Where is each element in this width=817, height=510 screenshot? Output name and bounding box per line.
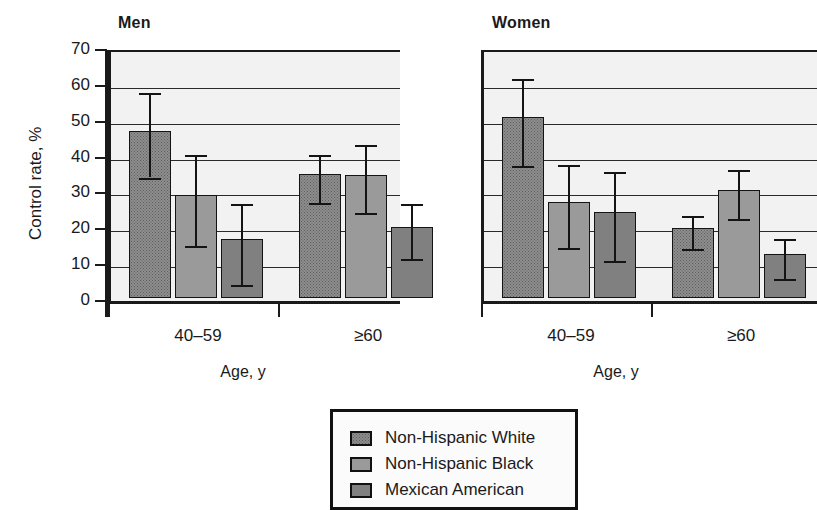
error-bar-cap: [512, 166, 534, 168]
error-bar-cap: [774, 239, 796, 241]
legend-swatch-icon: [350, 457, 372, 472]
legend-label: Non-Hispanic White: [385, 428, 535, 448]
error-bar-cap: [355, 213, 377, 215]
x-axis-label: Age, y: [526, 363, 706, 381]
error-bar-cap: [604, 261, 626, 263]
y-tick-mark-30: [95, 192, 107, 194]
y-tick-label-10: 10: [38, 254, 90, 274]
error-bar-cap: [231, 204, 253, 206]
error-bar-cap: [558, 165, 580, 167]
error-bar-cap: [401, 259, 423, 261]
legend-item-ma: Mexican American: [350, 480, 524, 500]
x-tick-label: ≥60: [691, 326, 791, 346]
plot-area: [481, 50, 817, 304]
error-bar-cap: [682, 249, 704, 251]
error-bar-cap: [139, 178, 161, 180]
y-tick-label-0: 0: [38, 290, 90, 310]
panel-title-women: Women: [492, 14, 550, 32]
error-bar: [241, 204, 243, 285]
error-bar-cap: [682, 216, 704, 218]
error-bar-cap: [309, 203, 331, 205]
error-bar-cap: [231, 285, 253, 287]
y-tick-mark-0: [95, 300, 107, 302]
legend-swatch-icon: [350, 483, 372, 498]
y-tick-mark-40: [95, 157, 107, 159]
error-bar: [614, 172, 616, 260]
y-axis-line: [105, 50, 108, 317]
error-bar: [784, 239, 786, 279]
y-tick-mark-10: [95, 264, 107, 266]
error-bar-cap: [401, 204, 423, 206]
y-tick-label-50: 50: [38, 111, 90, 131]
error-bar: [692, 216, 694, 249]
error-bar-cap: [139, 93, 161, 95]
legend-label: Non-Hispanic Black: [385, 454, 533, 474]
error-bar-cap: [185, 246, 207, 248]
y-tick-mark-20: [95, 228, 107, 230]
error-bar-cap: [558, 248, 580, 250]
error-bar: [365, 145, 367, 214]
error-bar: [319, 155, 321, 202]
legend-label: Mexican American: [385, 480, 524, 500]
chart-panel-men: Men40–59≥60Age, y: [108, 0, 400, 390]
y-tick-mark-60: [95, 85, 107, 87]
x-tick-label: 40–59: [521, 326, 621, 346]
y-tick-label-20: 20: [38, 218, 90, 238]
error-bar: [738, 170, 740, 219]
y-tick-label-70: 70: [38, 39, 90, 59]
error-bar-cap: [309, 155, 331, 157]
error-bar-cap: [604, 172, 626, 174]
error-bar: [568, 165, 570, 249]
error-bar: [149, 93, 151, 177]
error-bar-cap: [774, 279, 796, 281]
error-bar: [411, 204, 413, 260]
x-axis-label: Age, y: [153, 363, 333, 381]
error-bar: [195, 155, 197, 246]
x-tick-mark: [481, 304, 483, 317]
error-bar-cap: [512, 79, 534, 81]
gridline-60: [111, 88, 400, 89]
gridline-60: [484, 88, 817, 89]
plot-area: [108, 50, 400, 304]
x-tick-label: 40–59: [148, 326, 248, 346]
error-bar-cap: [728, 170, 750, 172]
figure-container: Control rate, % Men40–59≥60Age, yWomen40…: [0, 0, 817, 510]
x-tick-mark: [278, 304, 280, 317]
y-tick-label-30: 30: [38, 182, 90, 202]
legend-item-nhb: Non-Hispanic Black: [350, 454, 533, 474]
legend-swatch-icon: [350, 431, 372, 446]
legend-item-nhw: Non-Hispanic White: [350, 428, 535, 448]
y-tick-mark-70: [95, 49, 107, 51]
error-bar-cap: [728, 219, 750, 221]
x-tick-label: ≥60: [318, 326, 418, 346]
panel-title-men: Men: [118, 14, 151, 32]
chart-panel-women: Women40–59≥60Age, y: [481, 0, 817, 390]
error-bar-cap: [185, 155, 207, 157]
y-tick-label-60: 60: [38, 75, 90, 95]
error-bar-cap: [355, 145, 377, 147]
x-tick-mark: [651, 304, 653, 317]
x-tick-mark: [108, 304, 110, 317]
y-tick-label-40: 40: [38, 147, 90, 167]
y-tick-mark-50: [95, 121, 107, 123]
chart-legend: Non-Hispanic WhiteNon-Hispanic BlackMexi…: [330, 409, 578, 510]
error-bar: [522, 79, 524, 166]
gridline-50: [111, 124, 400, 125]
